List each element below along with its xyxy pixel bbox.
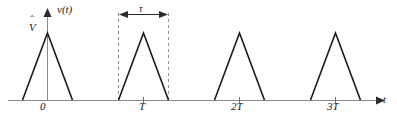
tick-label-3T: 3T — [327, 101, 339, 112]
v-axis — [44, 8, 52, 101]
pulse-width-guides — [119, 11, 169, 100]
pulse-width-label: τ — [139, 4, 143, 14]
tick-label-origin: 0 — [40, 101, 46, 112]
y-axis-label: v(t) — [57, 4, 72, 15]
amplitude-symbol: V — [29, 22, 36, 33]
pulse-1 — [119, 33, 169, 100]
amplitude-label: V — [29, 22, 36, 33]
pulse-train — [23, 33, 361, 100]
tick-label-T: T — [139, 101, 145, 112]
x-axis-label: t — [383, 95, 386, 105]
tick-label-2T: 2T — [231, 101, 243, 112]
pulse-2 — [215, 33, 265, 100]
pulse-3 — [311, 33, 361, 100]
tau-dimension-arrow — [119, 11, 168, 18]
